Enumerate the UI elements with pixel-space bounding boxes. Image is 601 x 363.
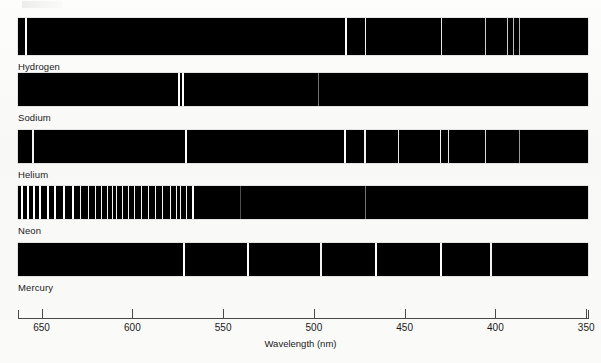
spectrum-band-sodium bbox=[18, 73, 588, 106]
emission-line bbox=[183, 243, 185, 276]
emission-line bbox=[162, 186, 163, 219]
spectrum-row: Sodium bbox=[0, 73, 601, 128]
emission-line bbox=[440, 243, 442, 276]
emission-line bbox=[63, 186, 65, 219]
emission-line bbox=[141, 186, 142, 219]
emission-line bbox=[513, 18, 514, 55]
emission-line bbox=[33, 186, 35, 219]
emission-line bbox=[54, 186, 56, 219]
emission-line bbox=[180, 186, 181, 219]
wavelength-axis: 650600550500450400350 Wavelength (nm) bbox=[0, 300, 601, 363]
emission-line bbox=[344, 130, 346, 163]
emission-line bbox=[240, 186, 241, 219]
emission-line bbox=[134, 186, 135, 219]
axis-title: Wavelength (nm) bbox=[0, 338, 601, 349]
axis-tick bbox=[132, 309, 133, 319]
emission-line bbox=[176, 186, 177, 219]
emission-line bbox=[519, 18, 520, 55]
emission-line bbox=[365, 186, 366, 219]
spectrum-label-neon: Neon bbox=[18, 225, 41, 236]
emission-line bbox=[155, 186, 156, 219]
emission-line bbox=[170, 186, 171, 219]
emission-line bbox=[101, 186, 102, 219]
axis-tick-label: 400 bbox=[487, 322, 504, 333]
emission-line bbox=[107, 186, 108, 219]
emission-line bbox=[448, 130, 449, 163]
emission-line bbox=[485, 18, 486, 55]
axis-tick-label: 650 bbox=[33, 322, 50, 333]
emission-line bbox=[116, 186, 117, 219]
axis-tick-label: 550 bbox=[215, 322, 232, 333]
spectrum-row: Neon bbox=[0, 186, 601, 241]
emission-line bbox=[182, 73, 184, 106]
emission-line bbox=[88, 186, 89, 219]
emission-line bbox=[25, 18, 27, 55]
axis-tick bbox=[405, 309, 406, 319]
spectrum-row: Helium bbox=[0, 130, 601, 185]
axis-tick bbox=[314, 309, 315, 319]
emission-line bbox=[122, 186, 123, 219]
spectrum-label-hydrogen: Hydrogen bbox=[18, 61, 60, 72]
axis-cap-right bbox=[588, 310, 589, 319]
axis-tick bbox=[42, 309, 43, 319]
emission-line bbox=[128, 186, 129, 219]
emission-line bbox=[148, 186, 149, 219]
emission-line bbox=[186, 186, 187, 219]
emission-line bbox=[485, 130, 486, 163]
emission-line bbox=[27, 186, 29, 219]
emission-line bbox=[345, 18, 347, 55]
axis-tick bbox=[586, 309, 587, 319]
emission-line bbox=[320, 243, 322, 276]
emission-line bbox=[375, 243, 377, 276]
axis-tick bbox=[223, 309, 224, 319]
emission-line bbox=[192, 186, 194, 219]
spectrum-band-helium bbox=[18, 130, 588, 163]
spectrum-label-sodium: Sodium bbox=[18, 112, 51, 123]
emission-line bbox=[185, 130, 187, 163]
emission-line bbox=[365, 18, 366, 55]
emission-line bbox=[72, 186, 74, 219]
axis-tick-label: 450 bbox=[396, 322, 413, 333]
spectrum-row: Mercury bbox=[0, 243, 601, 298]
emission-line bbox=[21, 186, 23, 219]
axis-line bbox=[18, 318, 588, 319]
spectrum-row: Hydrogen bbox=[0, 18, 601, 77]
emission-line bbox=[440, 130, 441, 163]
spectrum-label-mercury: Mercury bbox=[18, 282, 53, 293]
emission-line bbox=[364, 130, 366, 163]
emission-line bbox=[507, 18, 508, 55]
emission-line bbox=[112, 186, 113, 219]
spectra-chart: HydrogenSodiumHeliumNeonMercury bbox=[0, 0, 601, 300]
emission-line bbox=[95, 186, 96, 219]
axis-tick-label: 600 bbox=[124, 322, 141, 333]
emission-line bbox=[247, 243, 249, 276]
emission-line bbox=[32, 130, 34, 163]
spectrum-label-helium: Helium bbox=[18, 169, 48, 180]
emission-line bbox=[178, 73, 180, 106]
emission-line bbox=[47, 186, 49, 219]
emission-line bbox=[519, 130, 520, 163]
axis-tick-label: 350 bbox=[578, 322, 595, 333]
axis-cap-left bbox=[18, 310, 19, 319]
spectrum-band-neon bbox=[18, 186, 588, 219]
emission-line bbox=[39, 186, 41, 219]
emission-line bbox=[398, 130, 399, 163]
emission-line bbox=[318, 73, 319, 106]
axis-tick bbox=[495, 309, 496, 319]
spectrum-band-mercury bbox=[18, 243, 588, 276]
emission-line bbox=[441, 18, 442, 55]
emission-line bbox=[80, 186, 81, 219]
spectrum-band-hydrogen bbox=[18, 18, 588, 55]
axis-tick-label: 500 bbox=[306, 322, 323, 333]
emission-line bbox=[490, 243, 492, 276]
